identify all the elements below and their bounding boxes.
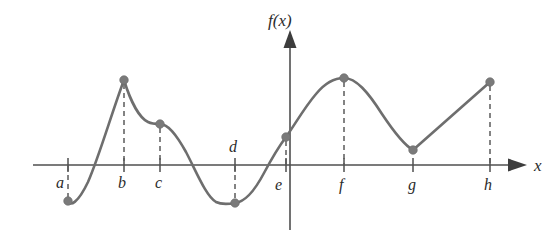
x-axis-group <box>33 159 527 172</box>
curve-segment-f-to-g <box>344 78 413 150</box>
y-axis-arrowhead <box>284 30 297 48</box>
graph-figure: a b c d e f g h f(x) x <box>0 0 556 248</box>
curve-segment-d-to-e <box>235 137 286 203</box>
curve-segment-e-to-f <box>286 78 344 137</box>
point-dot-g <box>409 146 418 155</box>
tick-labels-group: a b c d e f g h <box>56 138 492 194</box>
tick-label-f: f <box>339 176 346 194</box>
tick-label-b: b <box>118 174 126 191</box>
tick-label-a: a <box>56 174 64 191</box>
point-dot-c <box>156 120 165 129</box>
point-dot-f <box>340 74 349 83</box>
tick-label-d: d <box>229 138 238 155</box>
curve-segment-c-to-d <box>160 124 235 204</box>
point-dot-d <box>231 199 240 208</box>
point-dot-a <box>64 197 73 206</box>
tick-label-e: e <box>275 176 282 193</box>
x-axis-arrowhead <box>508 159 527 172</box>
curve-segment-b-to-c <box>124 80 160 124</box>
curve-segment-a-to-b <box>68 80 124 204</box>
function-graph-canvas: a b c d e f g h f(x) x <box>0 0 556 248</box>
axis-labels-group: f(x) x <box>268 11 542 175</box>
point-dot-h <box>486 78 495 87</box>
x-axis-label: x <box>533 156 542 175</box>
tick-label-g: g <box>408 176 416 194</box>
tick-label-c: c <box>155 174 162 191</box>
tick-label-h: h <box>484 176 492 193</box>
point-dot-b <box>120 76 129 85</box>
curve-segment-g-to-h <box>413 82 490 150</box>
function-label: f(x) <box>268 11 292 30</box>
point-dot-e <box>282 133 291 142</box>
